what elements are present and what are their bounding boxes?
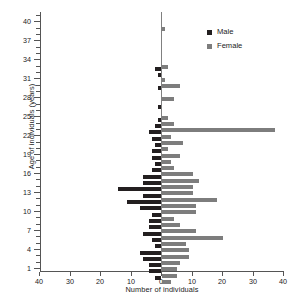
bar-female-age-21 [162, 154, 180, 158]
x-tick-label-3: 10 [120, 277, 142, 286]
bar-male-age-7 [152, 238, 161, 242]
bar-female-age-41 [162, 27, 165, 31]
bar-male-age-25 [155, 124, 161, 128]
bar-male-age-22 [155, 143, 161, 147]
bar-male-age-24 [149, 130, 161, 134]
bar-male-age-12 [140, 206, 161, 210]
legend-label-female: Female [217, 42, 242, 50]
y-tick-label-34: 34 [9, 55, 31, 64]
x-tick-label-6: 20 [211, 277, 233, 286]
bar-male-age-8 [143, 232, 161, 236]
x-tick-label-1: 30 [59, 277, 81, 286]
bar-female-age-11 [162, 217, 174, 221]
x-axis-title: Number of individuals [40, 285, 284, 294]
bar-male-age-34 [155, 67, 161, 71]
bar-female-age-15 [162, 191, 193, 195]
y-axis-title: Age of individuals (years) [27, 47, 36, 207]
bar-male-age-23 [152, 137, 161, 141]
legend-swatch-female-icon [207, 44, 212, 49]
y-tick-label-37: 37 [9, 36, 31, 45]
x-tick-3 [131, 272, 132, 276]
x-tick-0 [39, 272, 40, 276]
bar-female-age-30 [162, 97, 174, 101]
bar-male-age-19 [155, 162, 161, 166]
x-tick-label-0: 40 [28, 277, 50, 286]
y-tick-label-25: 25 [9, 112, 31, 121]
bar-female-age-35 [162, 65, 168, 69]
legend-item-male: Male [207, 26, 287, 38]
bar-male-age-10 [149, 219, 161, 223]
bar-female-age-14 [162, 198, 217, 202]
bar-male-age-1 [155, 276, 161, 280]
bar-female-age-16 [162, 185, 193, 189]
x-tick-label-2: 20 [89, 277, 111, 286]
bar-female-age-33 [162, 78, 165, 82]
bar-female-age-18 [162, 172, 193, 176]
bar-male-age-3 [149, 263, 161, 267]
bar-female-age-20 [162, 160, 171, 164]
y-tick-label-1: 1 [9, 264, 31, 273]
bar-female-age-12 [162, 210, 196, 214]
bar-male-age-4 [143, 257, 161, 261]
bar-female-age-19 [162, 166, 174, 170]
bar-female-age-32 [162, 84, 180, 88]
x-tick-label-5: 10 [181, 277, 203, 286]
bar-female-age-22 [162, 147, 168, 151]
bar-male-age-28 [158, 105, 161, 109]
y-tick-label-22: 22 [9, 131, 31, 140]
bar-female-age-6 [162, 248, 189, 252]
bar-male-age-21 [152, 149, 161, 153]
bar-female-age-2 [162, 274, 177, 278]
legend-item-female: Female [207, 40, 287, 52]
bar-male-age-11 [152, 213, 161, 217]
bar-male-age-14 [143, 194, 161, 198]
x-tick-1 [70, 272, 71, 276]
bar-female-age-27 [162, 116, 168, 120]
bar-female-age-10 [162, 223, 180, 227]
bar-male-age-15 [118, 187, 161, 191]
y-tick-label-16: 16 [9, 169, 31, 178]
bar-female-age-17 [162, 179, 199, 183]
bar-male-age-2 [149, 269, 161, 273]
bar-female-age-25 [162, 128, 275, 132]
y-tick-label-10: 10 [9, 207, 31, 216]
bar-male-age-5 [140, 251, 161, 255]
chart-legend: Male Female [207, 26, 287, 54]
x-tick-5 [192, 272, 193, 276]
bar-female-age-4 [162, 261, 180, 265]
bar-female-age-24 [162, 135, 171, 139]
y-tick-label-28: 28 [9, 93, 31, 102]
y-tick-label-31: 31 [9, 74, 31, 83]
bar-male-age-13 [127, 200, 161, 204]
bar-male-age-9 [149, 225, 161, 229]
bar-female-age-8 [162, 236, 223, 240]
bar-female-age-13 [162, 204, 196, 208]
bar-male-age-17 [143, 175, 161, 179]
y-tick-label-13: 13 [9, 188, 31, 197]
bar-female-age-23 [162, 141, 183, 145]
bar-male-age-26 [158, 118, 161, 122]
y-tick-label-40: 40 [9, 17, 31, 26]
population-pyramid-figure: Age of individuals (years) Number of ind… [0, 0, 301, 302]
x-tick-label-7: 30 [242, 277, 264, 286]
bar-male-age-18 [152, 168, 161, 172]
y-tick-label-7: 7 [9, 226, 31, 235]
x-tick-6 [222, 272, 223, 276]
y-tick-label-19: 19 [9, 150, 31, 159]
legend-label-male: Male [217, 28, 233, 36]
bar-male-age-6 [155, 244, 161, 248]
bar-female-age-3 [162, 267, 177, 271]
x-tick-7 [253, 272, 254, 276]
bar-male-age-31 [158, 86, 161, 90]
bar-female-age-26 [162, 122, 174, 126]
x-tick-8 [283, 272, 284, 276]
bar-female-age-7 [162, 242, 186, 246]
x-tick-2 [100, 272, 101, 276]
bar-male-age-16 [143, 181, 161, 185]
bar-male-age-20 [152, 156, 161, 160]
bar-female-age-9 [162, 229, 196, 233]
legend-swatch-male-icon [207, 30, 212, 35]
y-tick-label-4: 4 [9, 245, 31, 254]
bar-female-age-5 [162, 255, 189, 259]
bar-female-age-1 [162, 280, 171, 284]
